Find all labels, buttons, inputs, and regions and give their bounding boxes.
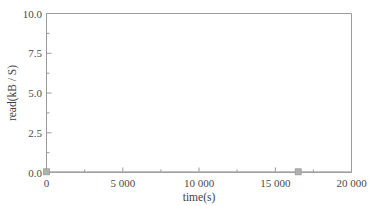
series-marker-point-16500 [295, 169, 301, 175]
x-tick-label-0: 0 [44, 177, 50, 189]
x-tick-label-15000: 15 000 [260, 177, 291, 189]
y-tick-label-0: 0.0 [28, 167, 42, 179]
y-tick-label-5: 5.0 [28, 87, 42, 99]
y-tick-label-2_5: 2.5 [28, 127, 42, 139]
chart-figure: 10.0 7.5 5.0 2.5 0.0 0 5 000 10 000 15 0… [0, 0, 385, 206]
x-tick-label-20000: 20 000 [336, 177, 367, 189]
figure-background [0, 0, 385, 206]
x-tick-label-10000: 10 000 [184, 177, 215, 189]
chart-canvas: 10.0 7.5 5.0 2.5 0.0 0 5 000 10 000 15 0… [0, 0, 385, 206]
series-marker-point-0 [44, 169, 50, 175]
y-tick-label-10: 10.0 [23, 8, 43, 20]
y-tick-label-7_5: 7.5 [28, 47, 42, 59]
x-axis-title: time(s) [183, 191, 216, 204]
x-tick-label-5000: 5 000 [110, 177, 135, 189]
y-axis-title: read(kB / S) [6, 65, 19, 121]
